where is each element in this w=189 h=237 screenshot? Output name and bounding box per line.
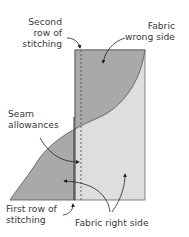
label-first-row: First row of stitching: [6, 203, 57, 225]
label-seam-allowances: Seam allowances: [8, 108, 59, 130]
arrow-second-row: [67, 38, 80, 48]
label-right-side: Fabric right side: [75, 217, 149, 228]
label-second-row: Second row of stitching: [22, 16, 62, 49]
label-wrong-side: Fabric wrong side: [120, 20, 175, 42]
arrow-first-row: [63, 204, 73, 215]
